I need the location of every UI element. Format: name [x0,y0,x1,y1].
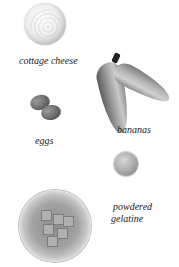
jelly-bowl-image [19,190,91,262]
eggs-label: eggs [35,135,53,146]
jelly-cube-icon [63,216,74,227]
jelly-cube-icon [41,210,52,221]
jelly-cube-icon [43,224,54,235]
gelatine-image [114,152,138,176]
jelly-cube-icon [57,228,68,239]
gelatine-label-line1: powdered [113,201,152,212]
bananas-label: bananas [117,124,151,135]
cottage-cheese-label: cottage cheese [19,55,78,66]
jelly-cube-icon [47,236,58,247]
gelatine-label-line2: gelatine [111,213,143,224]
banana-stem-icon [111,52,121,64]
cottage-cheese-image [24,3,66,45]
